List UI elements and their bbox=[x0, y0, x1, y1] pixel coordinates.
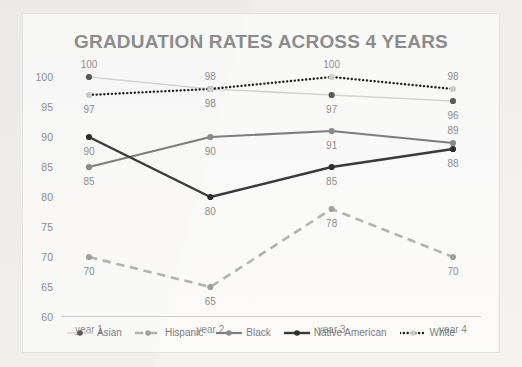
point-black-year-1 bbox=[86, 164, 92, 170]
legend-label-asian: Asian bbox=[97, 327, 122, 338]
point-black-year-3 bbox=[329, 128, 335, 134]
legend-label-white: White bbox=[430, 327, 456, 338]
data-label-native-american-year-2: 80 bbox=[205, 206, 216, 217]
legend-swatch-hispanic-icon bbox=[135, 328, 161, 338]
page-background: GRADUATION RATES ACROSS 4 YEARS 60657075… bbox=[0, 0, 522, 367]
line-asian bbox=[89, 77, 453, 101]
point-hispanic-year-3 bbox=[329, 206, 335, 212]
data-label-hispanic-year-3: 78 bbox=[326, 218, 337, 229]
point-white-year-1 bbox=[86, 92, 92, 98]
y-axis-tick-100: 100 bbox=[35, 71, 53, 83]
line-native-american bbox=[89, 137, 453, 197]
point-asian-year-1 bbox=[86, 74, 92, 80]
y-axis-tick-60: 60 bbox=[41, 311, 53, 323]
point-black-year-4 bbox=[450, 140, 456, 146]
legend-item-asian[interactable]: Asian bbox=[67, 327, 122, 338]
legend-item-white[interactable]: White bbox=[400, 327, 456, 338]
legend-item-native-american[interactable]: Native American bbox=[284, 327, 387, 338]
legend-swatch-asian-icon bbox=[67, 328, 93, 338]
point-native-american-year-2 bbox=[207, 194, 213, 200]
plot-area: 6065707580859095100year 1year 2year 3yea… bbox=[61, 77, 481, 317]
data-label-hispanic-year-4: 70 bbox=[447, 266, 458, 277]
legend-item-hispanic[interactable]: Hispanic bbox=[135, 327, 203, 338]
point-hispanic-year-2 bbox=[207, 284, 213, 290]
y-axis-tick-75: 75 bbox=[41, 221, 53, 233]
line-hispanic bbox=[89, 209, 453, 287]
y-axis-tick-65: 65 bbox=[41, 281, 53, 293]
data-label-white-year-3: 100 bbox=[323, 59, 340, 70]
point-asian-year-3 bbox=[329, 92, 335, 98]
legend-label-native-american: Native American bbox=[314, 327, 387, 338]
legend-item-black[interactable]: Black bbox=[216, 327, 270, 338]
line-black bbox=[89, 131, 453, 167]
data-label-native-american-year-3: 85 bbox=[326, 176, 337, 187]
point-hispanic-year-1 bbox=[86, 254, 92, 260]
chart-title: GRADUATION RATES ACROSS 4 YEARS bbox=[23, 31, 499, 53]
y-axis-tick-95: 95 bbox=[41, 101, 53, 113]
data-label-asian-year-3: 97 bbox=[326, 104, 337, 115]
y-axis-tick-90: 90 bbox=[41, 131, 53, 143]
point-asian-year-4 bbox=[450, 98, 456, 104]
legend-label-black: Black bbox=[246, 327, 270, 338]
series-lines bbox=[61, 77, 481, 317]
data-label-hispanic-year-2: 65 bbox=[205, 296, 216, 307]
data-label-native-american-year-4: 88 bbox=[447, 158, 458, 169]
data-label-black-year-3: 91 bbox=[326, 140, 337, 151]
data-label-white-year-2: 98 bbox=[205, 98, 216, 109]
point-native-american-year-3 bbox=[329, 164, 335, 170]
legend-swatch-black-icon bbox=[216, 328, 242, 338]
data-label-hispanic-year-1: 70 bbox=[83, 266, 94, 277]
data-label-asian-year-2: 98 bbox=[205, 71, 216, 82]
y-axis-tick-80: 80 bbox=[41, 191, 53, 203]
point-hispanic-year-4 bbox=[450, 254, 456, 260]
point-black-year-2 bbox=[207, 134, 213, 140]
legend-label-hispanic: Hispanic bbox=[165, 327, 203, 338]
point-white-year-4 bbox=[450, 86, 456, 92]
data-label-asian-year-1: 100 bbox=[81, 59, 98, 70]
data-label-black-year-1: 85 bbox=[83, 176, 94, 187]
point-white-year-3 bbox=[329, 74, 335, 80]
legend-swatch-white-icon bbox=[400, 328, 426, 338]
data-label-black-year-2: 90 bbox=[205, 146, 216, 157]
data-label-white-year-4: 98 bbox=[447, 71, 458, 82]
legend-swatch-native-american-icon bbox=[284, 328, 310, 338]
point-native-american-year-1 bbox=[86, 134, 92, 140]
data-label-white-year-1: 97 bbox=[83, 104, 94, 115]
y-axis-tick-85: 85 bbox=[41, 161, 53, 173]
point-white-year-2 bbox=[207, 86, 213, 92]
point-native-american-year-4 bbox=[450, 146, 456, 152]
y-axis-tick-70: 70 bbox=[41, 251, 53, 263]
chart-legend: AsianHispanicBlackNative AmericanWhite bbox=[23, 327, 499, 338]
data-label-asian-year-4: 96 bbox=[447, 110, 458, 121]
chart-card: GRADUATION RATES ACROSS 4 YEARS 60657075… bbox=[22, 13, 500, 353]
data-label-native-american-year-1: 90 bbox=[83, 146, 94, 157]
data-label-black-year-4: 89 bbox=[447, 125, 458, 136]
